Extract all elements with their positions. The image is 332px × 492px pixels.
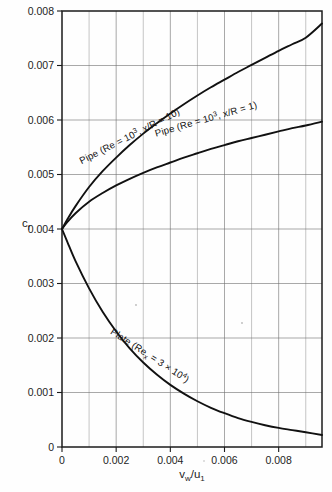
paper-speck [135,304,137,306]
figure-container: 00.0010.0020.0030.0040.0050.0060.0070.00… [0,0,332,492]
x-tick-label: 0 [59,454,65,466]
y-tick-label: 0 [48,441,54,453]
x-tick-label: 0.004 [157,454,183,466]
y-tick-label: 0.007 [28,59,54,71]
y-tick-label: 0.004 [28,223,54,235]
paper-speck [203,460,205,462]
x-tick-label: 0.002 [103,454,129,466]
y-tick-label: 0.008 [28,5,54,17]
y-tick-label: 0.002 [28,332,54,344]
line-chart: 00.0010.0020.0030.0040.0050.0060.0070.00… [0,0,332,492]
paper-speck [241,322,243,324]
x-tick-label: 0.006 [211,454,237,466]
x-tick-label: 0.008 [266,454,292,466]
chart-background [0,0,332,492]
y-tick-label: 0.003 [28,277,54,289]
y-tick-label: 0.005 [28,168,54,180]
y-tick-label: 0.006 [28,114,54,126]
y-tick-label: 0.001 [28,386,54,398]
